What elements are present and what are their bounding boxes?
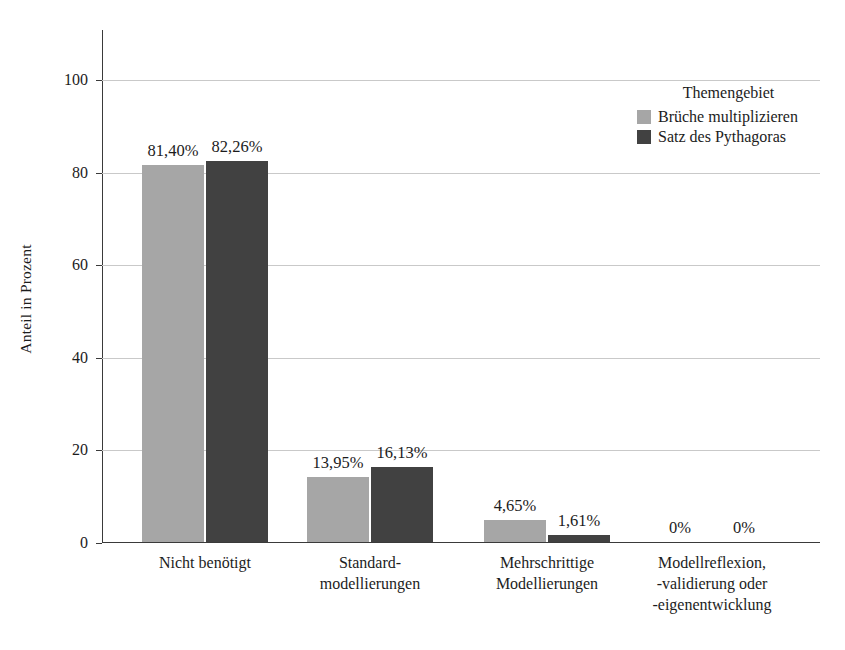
gridline [102, 80, 820, 81]
bar [307, 477, 369, 542]
y-tick-label: 20 [28, 441, 88, 459]
legend: Themengebiet Brüche multiplizierenSatz d… [637, 84, 837, 148]
legend-swatch-icon [637, 110, 651, 124]
bar-value-label: 1,61% [558, 511, 601, 531]
bar-value-label: 82,26% [212, 137, 263, 157]
legend-entry: Brüche multiplizieren [637, 108, 837, 126]
y-tick-mark [96, 265, 102, 266]
bar [548, 535, 610, 542]
bar-value-label: 81,40% [148, 141, 199, 161]
category-label-line: Modellreflexion, [592, 552, 832, 573]
y-tick-mark [96, 450, 102, 451]
bar [484, 520, 546, 542]
legend-label: Satz des Pythagoras [658, 128, 786, 146]
legend-label: Brüche multiplizieren [658, 108, 798, 126]
y-tick-label: 0 [28, 534, 88, 552]
y-tick-mark [96, 358, 102, 359]
bar [142, 165, 204, 542]
bar-chart: Anteil in Prozent 020406080100 81,40%82,… [0, 0, 845, 650]
x-axis-category-label: Modellreflexion,-validierung oder-eigene… [592, 552, 832, 615]
y-tick-mark [96, 80, 102, 81]
legend-entry: Satz des Pythagoras [637, 128, 837, 146]
y-axis-line [102, 30, 103, 543]
y-tick-label: 40 [28, 349, 88, 367]
category-label-line: -validierung oder [592, 573, 832, 594]
legend-swatch-icon [637, 130, 651, 144]
y-tick-mark [96, 173, 102, 174]
y-tick-label: 100 [28, 71, 88, 89]
bar-value-label: 13,95% [313, 453, 364, 473]
y-tick-mark [96, 543, 102, 544]
y-tick-label: 60 [28, 256, 88, 274]
legend-title: Themengebiet [637, 84, 820, 102]
bar-value-label: 16,13% [377, 443, 428, 463]
y-tick-label: 80 [28, 164, 88, 182]
bar [371, 467, 433, 542]
bar-value-label: 0% [669, 518, 691, 538]
bar [206, 161, 268, 542]
x-axis-line [102, 542, 820, 543]
legend-entries: Brüche multiplizierenSatz des Pythagoras [637, 108, 837, 146]
bar-value-label: 4,65% [494, 496, 537, 516]
bar-value-label: 0% [733, 518, 755, 538]
category-label-line: -eigenentwicklung [592, 594, 832, 615]
